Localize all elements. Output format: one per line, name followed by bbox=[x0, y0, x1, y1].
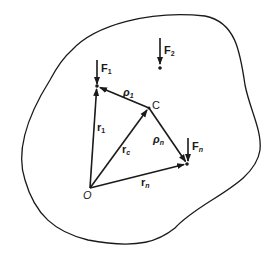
label-f1: F1 bbox=[101, 62, 112, 75]
point-c bbox=[148, 107, 151, 110]
label-rhon: ρn bbox=[152, 133, 164, 146]
point-2 bbox=[158, 66, 162, 70]
force-fn: Fn bbox=[188, 138, 203, 161]
force-f1: F1 bbox=[97, 60, 112, 84]
label-rn: rn bbox=[141, 176, 150, 189]
vector-rho1: ρ1 bbox=[100, 86, 149, 108]
point-1 bbox=[95, 84, 99, 88]
force-f2: F2 bbox=[158, 38, 175, 70]
point-n bbox=[185, 162, 189, 166]
diagram-canvas: F1 F2 Fn r1 rc rn bbox=[0, 0, 277, 274]
label-fn: Fn bbox=[192, 140, 203, 153]
vector-r1: r1 bbox=[90, 84, 105, 188]
body-outline bbox=[22, 15, 261, 244]
label-o: O bbox=[83, 189, 92, 201]
label-r1: r1 bbox=[97, 121, 105, 134]
label-rho1: ρ1 bbox=[122, 86, 134, 99]
vector-rhon: ρn bbox=[149, 108, 186, 162]
label-f2: F2 bbox=[164, 44, 175, 57]
label-c: C bbox=[152, 99, 160, 111]
label-rc: rc bbox=[122, 143, 130, 156]
